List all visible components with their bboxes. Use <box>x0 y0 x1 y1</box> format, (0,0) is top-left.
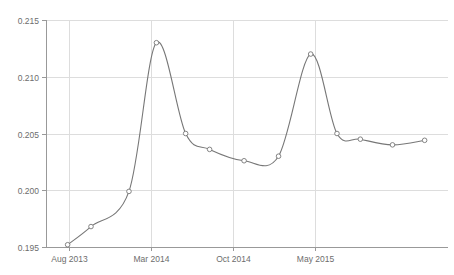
x-tick-label: Mar 2014 <box>134 254 170 264</box>
y-tick-label: 0.200 <box>18 186 40 196</box>
data-point-marker <box>183 131 188 136</box>
y-tick-label: 0.210 <box>18 73 40 83</box>
data-point-marker <box>65 242 70 247</box>
chart-background <box>0 0 454 275</box>
chart-canvas: 0.1950.2000.2050.2100.215 Aug 2013Mar 20… <box>0 0 454 275</box>
data-point-marker <box>127 189 132 194</box>
data-point-marker <box>422 138 427 143</box>
data-point-marker <box>308 52 313 57</box>
line-chart: 0.1950.2000.2050.2100.215 Aug 2013Mar 20… <box>0 0 454 275</box>
data-point-marker <box>89 224 94 229</box>
x-tick-label: May 2015 <box>297 254 335 264</box>
data-point-marker <box>207 147 212 152</box>
x-tick-label: Aug 2013 <box>51 254 88 264</box>
x-tick-label: Oct 2014 <box>216 254 251 264</box>
data-point-marker <box>358 137 363 142</box>
data-point-marker <box>276 154 281 159</box>
y-tick-label: 0.215 <box>18 16 40 26</box>
data-point-marker <box>242 158 247 163</box>
data-point-marker <box>390 143 395 148</box>
y-tick-label: 0.195 <box>18 243 40 253</box>
data-point-marker <box>335 131 340 136</box>
y-tick-label: 0.205 <box>18 130 40 140</box>
data-point-marker <box>154 40 159 45</box>
